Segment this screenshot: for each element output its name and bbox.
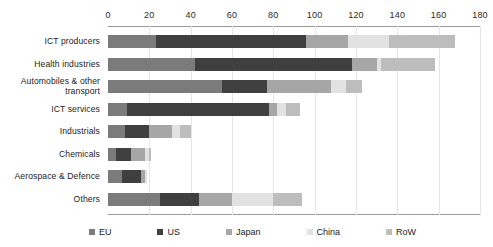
bar-segment-eu <box>108 170 122 183</box>
legend-swatch-icon <box>386 229 392 235</box>
stacked-bar <box>108 193 302 206</box>
bar-segment-eu <box>108 58 195 71</box>
x-tick-label: 20 <box>144 10 154 20</box>
stacked-bar-chart: 020406080100120140160180 ICT producersHe… <box>0 0 493 247</box>
bar-segment-eu <box>108 148 116 161</box>
x-tick-label: 40 <box>185 10 195 20</box>
bar-segment-row <box>180 125 190 138</box>
bar-segment-japan <box>199 193 232 206</box>
bar-segment-japan <box>149 125 172 138</box>
bar-segment-us <box>125 125 150 138</box>
bar-segment-china <box>331 80 345 93</box>
legend-item-us[interactable]: US <box>157 227 180 237</box>
bar-segment-us <box>122 170 141 183</box>
bar-segment-china <box>348 35 389 48</box>
category-label: ICT services <box>0 105 100 115</box>
legend-swatch-icon <box>226 229 232 235</box>
bar-segment-china <box>172 125 180 138</box>
legend-item-china[interactable]: China <box>307 227 341 237</box>
chart-row: Health industries <box>0 54 493 76</box>
legend-item-row[interactable]: RoW <box>386 227 416 237</box>
category-label: Automobiles & other transport <box>0 77 100 96</box>
bar-segment-us <box>116 148 130 161</box>
bar-segment-eu <box>108 35 156 48</box>
x-tick-label: 60 <box>227 10 237 20</box>
chart-row: ICT producers <box>0 31 493 53</box>
bar-segment-japan <box>269 103 277 116</box>
x-tick-label: 80 <box>268 10 278 20</box>
chart-row: Aerospace & Defence <box>0 166 493 188</box>
chart-legend: EUUSJapanChinaRoW <box>0 222 493 242</box>
x-tick-label: 120 <box>348 10 364 20</box>
x-tick-label: 180 <box>472 10 488 20</box>
legend-label: US <box>167 227 180 237</box>
bar-segment-eu <box>108 125 125 138</box>
legend-swatch-icon <box>157 229 163 235</box>
stacked-bar <box>108 148 151 161</box>
chart-row: Industrials <box>0 121 493 143</box>
legend-label: EU <box>99 227 112 237</box>
x-tick-label: 160 <box>431 10 447 20</box>
chart-row: Chemicals <box>0 144 493 166</box>
bar-segment-china <box>145 170 147 183</box>
category-label: Aerospace & Defence <box>0 172 100 182</box>
chart-row: ICT services <box>0 99 493 121</box>
bar-segment-japan <box>131 148 145 161</box>
category-label: Health industries <box>0 60 100 70</box>
stacked-bar <box>108 58 435 71</box>
bar-segment-china <box>277 103 285 116</box>
bar-segment-row <box>149 148 151 161</box>
bar-segment-eu <box>108 193 160 206</box>
bar-segment-china <box>232 193 273 206</box>
bar-segment-japan <box>352 58 377 71</box>
bar-segment-eu <box>108 80 222 93</box>
stacked-bar <box>108 170 147 183</box>
bar-segment-japan <box>306 35 347 48</box>
bar-segment-us <box>156 35 307 48</box>
bar-segment-us <box>222 80 267 93</box>
bar-segment-row <box>273 193 302 206</box>
bar-segment-row <box>381 58 435 71</box>
stacked-bar <box>108 80 362 93</box>
stacked-bar <box>108 35 455 48</box>
stacked-bar <box>108 103 300 116</box>
chart-row: Automobiles & other transport <box>0 76 493 98</box>
bar-segment-row <box>389 35 455 48</box>
legend-label: China <box>317 227 341 237</box>
category-label: Others <box>0 195 100 205</box>
x-tick-label: 0 <box>105 10 110 20</box>
bar-segment-row <box>346 80 363 93</box>
legend-swatch-icon <box>307 229 313 235</box>
legend-label: Japan <box>236 227 261 237</box>
category-label: Chemicals <box>0 150 100 160</box>
bar-segment-row <box>286 103 300 116</box>
bar-segment-us <box>195 58 352 71</box>
category-label: ICT producers <box>0 37 100 47</box>
legend-swatch-icon <box>89 229 95 235</box>
axis-bottom-line <box>108 214 480 215</box>
category-label: Industrials <box>0 127 100 137</box>
legend-item-japan[interactable]: Japan <box>226 227 261 237</box>
legend-item-eu[interactable]: EU <box>89 227 112 237</box>
bar-segment-japan <box>267 80 331 93</box>
legend-label: RoW <box>396 227 416 237</box>
stacked-bar <box>108 125 191 138</box>
axis-top-line <box>108 26 480 27</box>
x-tick-label: 140 <box>390 10 406 20</box>
x-tick-label: 100 <box>307 10 323 20</box>
bar-segment-eu <box>108 103 127 116</box>
chart-row: Others <box>0 189 493 211</box>
bar-segment-us <box>127 103 270 116</box>
bar-segment-us <box>160 193 199 206</box>
